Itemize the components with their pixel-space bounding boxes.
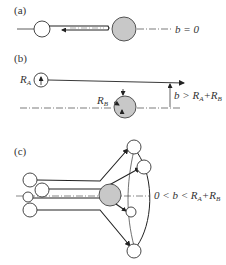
panel-c: (c) 0 < b < RA+RB <box>14 140 221 258</box>
panel-b: (b) RA RB b > RA+RB <box>14 52 223 118</box>
condition-label: b = 0 <box>175 23 199 35</box>
short-deflection-arrow-icon <box>116 204 126 211</box>
incoming-sphere <box>23 192 33 202</box>
scattered-sphere <box>126 207 136 217</box>
target-sphere <box>99 184 121 206</box>
condition-label: b > RA+RB <box>174 89 223 103</box>
scattered-sphere <box>137 160 151 174</box>
radius-a-label: RA <box>19 73 32 87</box>
condition-label: 0 < b < RA+RB <box>154 189 221 203</box>
collision-diagram: (a) b = 0 (b) RA RB b > RA+RB (c) <box>0 0 226 265</box>
scattered-sphere <box>127 244 141 258</box>
trajectory-arrow <box>48 80 184 83</box>
scattered-sphere <box>127 140 141 154</box>
incoming-sphere <box>23 203 37 217</box>
envelope-inner <box>128 150 134 246</box>
trajectory-upper <box>37 149 128 181</box>
sphere-b <box>112 17 136 41</box>
panel-a-label: (a) <box>14 4 27 17</box>
panel-b-label: (b) <box>14 52 27 65</box>
incoming-sphere <box>35 183 49 197</box>
trajectory-lower <box>37 210 130 246</box>
sphere-b <box>114 96 136 118</box>
panel-a: (a) b = 0 <box>14 4 199 41</box>
sphere-a <box>34 21 50 37</box>
radius-b-label: RB <box>96 94 109 108</box>
trajectory-mid-upper <box>49 168 140 189</box>
incoming-sphere <box>23 173 37 187</box>
panel-c-label: (c) <box>14 145 27 158</box>
